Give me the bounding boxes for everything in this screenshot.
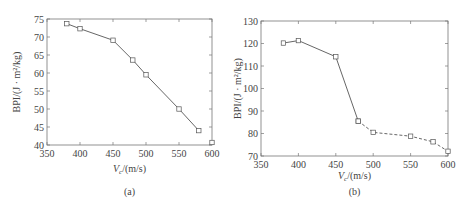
chart-panel-a: 3504004505005506004045505560657075BPI/(J… [11, 14, 220, 199]
y-tick-label: 70 [34, 32, 44, 43]
x-tick-label: 450 [106, 148, 121, 159]
x-tick-label: 600 [205, 148, 220, 159]
data-marker [334, 55, 338, 59]
data-marker [131, 58, 135, 62]
data-marker [446, 149, 450, 153]
x-tick-label: 400 [73, 148, 88, 159]
x-tick-label: 400 [291, 159, 306, 170]
data-marker [78, 27, 82, 31]
data-marker [281, 41, 285, 45]
y-axis-label: BPI/(J · m²/kg) [11, 52, 23, 113]
series-line [283, 41, 358, 122]
x-tick-label: 500 [139, 148, 154, 159]
plot-frame [261, 21, 448, 156]
y-tick-label: 110 [243, 61, 258, 72]
x-axis-label: Vc/(m/s) [338, 170, 371, 183]
y-tick-label: 55 [34, 86, 44, 97]
y-tick-label: 80 [248, 128, 258, 139]
data-marker [177, 107, 181, 111]
x-tick-label: 550 [403, 159, 418, 170]
data-marker [296, 38, 300, 42]
data-marker [431, 140, 435, 144]
x-tick-label: 550 [172, 148, 187, 159]
x-tick-label: 600 [441, 159, 456, 170]
x-tick-label: 450 [328, 159, 343, 170]
y-tick-label: 40 [34, 140, 44, 151]
data-marker [408, 134, 412, 138]
data-marker [111, 38, 115, 42]
data-marker [197, 128, 201, 132]
panel-label: (b) [349, 186, 361, 198]
y-tick-label: 100 [243, 83, 258, 94]
data-marker [65, 21, 69, 25]
y-tick-label: 60 [34, 68, 44, 79]
series-line [358, 121, 448, 151]
y-tick-label: 90 [248, 106, 258, 117]
data-marker [144, 73, 148, 77]
chart-figure: 3504004505005506004045505560657075BPI/(J… [0, 0, 469, 208]
y-tick-label: 45 [34, 122, 44, 133]
y-tick-label: 70 [248, 151, 258, 162]
y-tick-label: 50 [34, 104, 44, 115]
plot-frame [47, 19, 212, 145]
chart-panel-b: 350400450500550600708090100110120130BPI/… [232, 16, 456, 199]
x-tick-label: 500 [366, 159, 381, 170]
panel-label: (a) [124, 186, 135, 198]
data-marker [356, 119, 360, 123]
y-tick-label: 130 [243, 16, 258, 27]
y-axis-label: BPI/(J · m²/kg) [232, 58, 244, 119]
series-line [67, 24, 199, 131]
data-marker [210, 140, 214, 144]
y-tick-label: 120 [243, 38, 258, 49]
x-axis-label: Vc/(m/s) [113, 163, 146, 176]
y-tick-label: 75 [34, 14, 44, 25]
data-marker [371, 130, 375, 134]
y-tick-label: 65 [34, 50, 44, 61]
